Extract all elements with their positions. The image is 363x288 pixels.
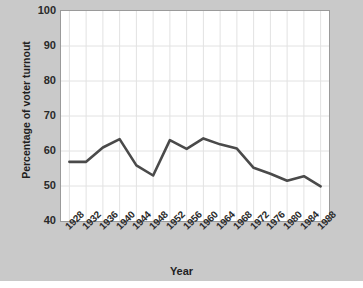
x-axis-ticks: 1928193219361940194419481952195619601964… [60,224,340,270]
y-axis-title: Percentage of voter turnout [20,25,32,195]
y-tick-label: 80 [10,75,56,86]
plot-area [60,10,330,222]
chart-figure: 405060708090100 Percentage of voter turn… [0,0,363,281]
y-tick-label: 40 [10,215,56,226]
data-line-voter-turnout [69,138,320,186]
x-axis-title: Year [0,265,363,277]
chart-canvas [61,11,329,221]
y-tick-label: 90 [10,40,56,51]
bottom-margin-strip [0,281,363,288]
y-tick-label: 70 [10,110,56,121]
y-tick-label: 50 [10,180,56,191]
y-tick-label: 60 [10,145,56,156]
y-tick-label: 100 [10,5,56,16]
